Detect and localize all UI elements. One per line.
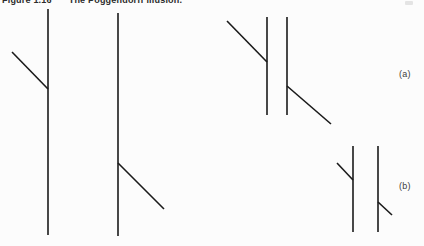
diagonal-lower-line [118, 163, 164, 209]
figure-panel-a [227, 17, 331, 124]
diagonal-upper-line [337, 163, 353, 180]
diagonal-lower-line [378, 202, 392, 215]
panel-label-a: (a) [399, 69, 411, 79]
diagonal-lower-line [287, 86, 331, 124]
diagonal-upper-line [12, 52, 48, 89]
panel-label-b: (b) [399, 181, 411, 191]
figure-main-left [12, 9, 164, 236]
illusion-diagram [0, 0, 424, 246]
figure-canvas: Figure 1.16The Poggendorff illusion. (a)… [0, 0, 424, 246]
diagonal-upper-line [227, 21, 267, 62]
figure-panel-b [337, 146, 392, 232]
